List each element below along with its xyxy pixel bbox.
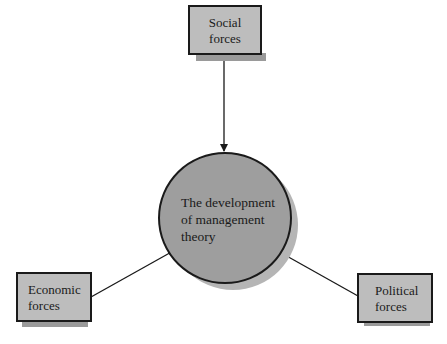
social-label-line2: forces [190,31,260,47]
economic-label-line2: forces [28,298,81,314]
social-forces-box: Social forces [188,5,262,55]
center-label-line1: The development [181,194,275,211]
political-label-line1: Political [375,283,418,299]
economic-label-line1: Economic [28,282,81,298]
center-label: The development of management theory [181,194,275,245]
economic-forces-box: Economic forces [16,272,92,322]
political-label-line2: forces [375,299,418,315]
center-label-line2: of management [181,211,275,228]
political-forces-box: Political forces [357,273,433,323]
social-label-line1: Social [190,15,260,31]
center-label-line3: theory [181,228,275,245]
arrow-economic-to-center [91,250,175,297]
